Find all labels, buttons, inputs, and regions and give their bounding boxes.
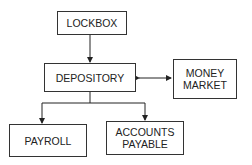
node-money-market-line2: MARKET: [183, 79, 227, 91]
node-money-market: MONEY MARKET: [173, 59, 237, 99]
node-accounts-payable-line1: ACCOUNTS: [116, 126, 175, 138]
node-accounts-payable: ACCOUNTS PAYABLE: [106, 121, 184, 155]
node-lockbox-label: LOCKBOX: [67, 17, 118, 29]
node-money-market-line1: MONEY: [186, 67, 225, 79]
node-payroll: PAYROLL: [9, 124, 87, 157]
node-depository-label: DEPOSITORY: [56, 72, 124, 84]
node-accounts-payable-line2: PAYABLE: [122, 138, 168, 150]
node-depository: DEPOSITORY: [44, 63, 136, 92]
node-lockbox: LOCKBOX: [57, 11, 127, 35]
node-payroll-label: PAYROLL: [25, 135, 72, 147]
